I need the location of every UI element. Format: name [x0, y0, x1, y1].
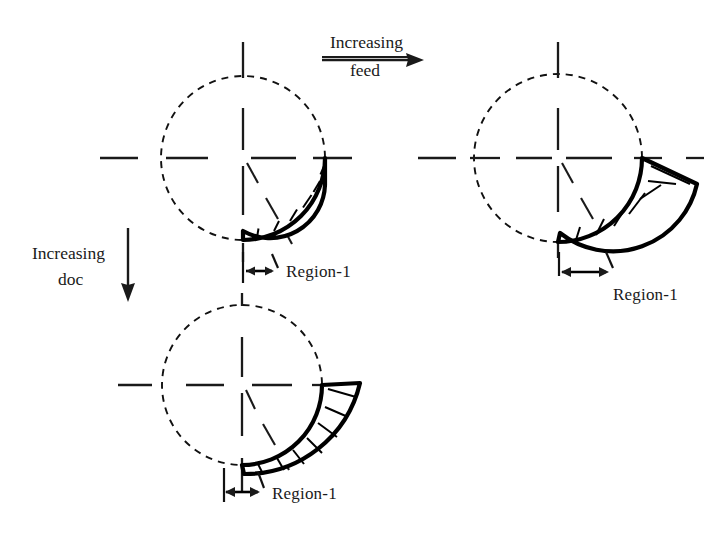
- arrow-left-icon: [246, 267, 255, 276]
- region-1-label-top-right: Region-1: [613, 285, 678, 304]
- region-1-dimension: [559, 252, 613, 277]
- arrow-left-icon: [561, 267, 571, 277]
- arrow-right-icon: [406, 53, 424, 67]
- increasing-doc-annotation: Increasing doc: [32, 228, 135, 302]
- arrow-down-icon: [121, 283, 135, 302]
- arrow-right-icon: [265, 267, 274, 276]
- increasing-feed-line1: Increasing: [330, 32, 403, 52]
- region-1-label-bottom-left: Region-1: [272, 484, 337, 503]
- arrow-right-icon: [599, 267, 609, 277]
- figure-canvas: Region-1: [0, 0, 722, 547]
- arrow-right-icon: [250, 487, 260, 497]
- diagram-bottom-left: Region-1: [118, 293, 360, 503]
- increasing-feed-annotation: Increasing feed: [322, 32, 424, 80]
- region-1-label-top-left: Region-1: [286, 262, 351, 281]
- increasing-doc-line2: doc: [58, 269, 84, 289]
- region-crescent: [243, 158, 325, 240]
- increasing-doc-line1: Increasing: [32, 243, 105, 263]
- diagram-top-right: Region-1: [418, 42, 704, 304]
- diagram-top-left: Region-1: [100, 42, 352, 283]
- region-crescent: [242, 383, 360, 474]
- region-crescent: [558, 158, 697, 251]
- increasing-feed-line2: feed: [350, 60, 380, 80]
- arrow-left-icon: [225, 487, 235, 497]
- region-1-dimension: [243, 252, 278, 283]
